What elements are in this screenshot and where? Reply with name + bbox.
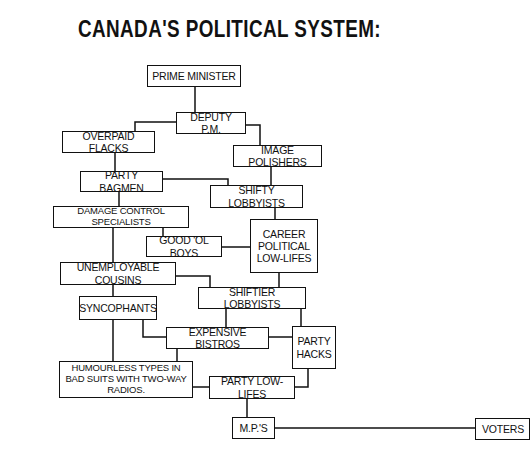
box-party-bagmen: Party Bagmen bbox=[80, 171, 163, 192]
box-expensive-bistros: Expensive Bistros bbox=[166, 327, 269, 349]
box-mps: M.P.'s bbox=[232, 417, 275, 439]
box-overpaid-flacks: Overpaid Flacks bbox=[62, 131, 155, 153]
box-image-polishers: Image Polishers bbox=[233, 145, 322, 167]
box-damage-control: Damage Control Specialists bbox=[53, 206, 189, 228]
box-humourless-types: Humourless Types in Bad Suits with Two-W… bbox=[59, 361, 193, 398]
box-party-hacks: Party Hacks bbox=[292, 326, 336, 369]
box-party-low-lifes: Party Low-Lifes bbox=[209, 376, 295, 399]
box-voters: Voters bbox=[475, 418, 530, 440]
box-syncophants: Syncophants bbox=[79, 296, 157, 320]
box-shifty-lobbyists: Shifty Lobbyists bbox=[210, 185, 303, 208]
box-unemployable-cousins: Unemployable Cousins bbox=[60, 262, 176, 285]
box-career-political: Career Political Low-Lifes bbox=[250, 219, 318, 273]
box-shiftier-lobbyists: Shiftier Lobbyists bbox=[198, 287, 306, 309]
box-good-ol-boys: Good 'Ol Boys bbox=[146, 236, 222, 257]
box-prime-minister: Prime Minister bbox=[147, 65, 241, 87]
box-deputy-pm: Deputy P.M. bbox=[176, 112, 246, 134]
